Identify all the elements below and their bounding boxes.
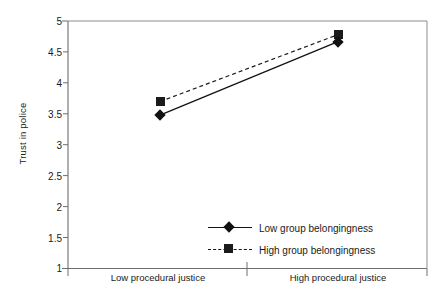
y-tick-label: 4.5	[22, 48, 62, 58]
legend-sample-dashed-square	[208, 243, 252, 257]
y-tick-label: 3.5	[22, 110, 62, 120]
y-axis-tick-labels: 5 4.5 4 3.5 3 2.5 2 1.5 1	[18, 0, 62, 302]
y-axis-ticks	[62, 21, 68, 269]
data-point-high-low-pj	[156, 97, 165, 106]
y-tick-label: 2.5	[22, 172, 62, 182]
series-high-group-belongingness	[160, 35, 338, 102]
legend-item-low-group-belongingness: Low group belongingness	[208, 220, 373, 236]
x-tick-label-high-procedural-justice: High procedural justice	[248, 272, 428, 283]
legend-item-high-group-belongingness: High group belongingness	[208, 242, 375, 258]
legend: Low group belongingness High group belon…	[208, 220, 408, 262]
series-low-group-belongingness	[160, 42, 338, 116]
y-tick-label: 1	[22, 264, 62, 274]
y-tick-label: 5	[22, 17, 62, 27]
y-tick-label: 2	[22, 203, 62, 213]
y-tick-label: 1.5	[22, 234, 62, 244]
x-tick-label-low-procedural-justice: Low procedural justice	[68, 272, 248, 283]
y-tick-label: 3	[22, 141, 62, 151]
interaction-plot: Trust in police 5 4.5 4 3.5 3 2.5 2 1.5 …	[0, 0, 442, 302]
x-axis-tick-labels: Low procedural justice High procedural j…	[68, 272, 428, 294]
y-tick-label: 4	[22, 79, 62, 89]
legend-sample-solid-diamond	[208, 221, 252, 235]
legend-label: Low group belongingness	[252, 223, 373, 234]
legend-label: High group belongingness	[252, 245, 375, 256]
diamond-marker-icon	[223, 221, 234, 232]
square-marker-icon	[224, 244, 233, 253]
